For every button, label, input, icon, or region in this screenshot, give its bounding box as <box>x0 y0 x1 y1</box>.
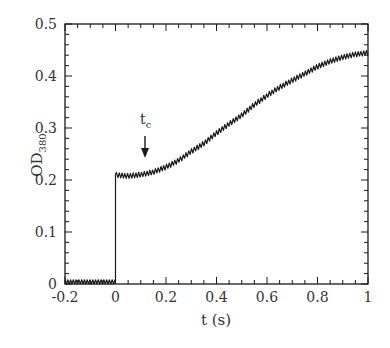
svg-text:0.2: 0.2 <box>155 289 177 305</box>
svg-text:0.5: 0.5 <box>35 16 57 32</box>
chart: -0.200.20.40.60.8100.10.20.30.40.5 tc t … <box>0 0 390 348</box>
tick-labels: -0.200.20.40.60.8100.10.20.30.40.5 <box>35 16 373 305</box>
svg-text:0.4: 0.4 <box>205 289 227 305</box>
svg-text:0.4: 0.4 <box>35 68 57 84</box>
svg-text:0.8: 0.8 <box>306 289 328 305</box>
svg-text:0: 0 <box>111 289 120 305</box>
svg-text:0.6: 0.6 <box>256 289 278 305</box>
down-arrow-icon <box>141 148 149 158</box>
tc-annotation: tc <box>140 111 152 158</box>
y-axis-label: OD380 <box>28 133 48 176</box>
svg-text:0.1: 0.1 <box>35 224 57 240</box>
svg-text:tc: tc <box>140 111 152 130</box>
x-axis-label: t (s) <box>201 311 231 329</box>
annotation-subscript: c <box>146 119 152 130</box>
svg-text:1: 1 <box>364 289 373 305</box>
data-trace <box>65 51 368 285</box>
svg-text:0: 0 <box>48 276 57 292</box>
